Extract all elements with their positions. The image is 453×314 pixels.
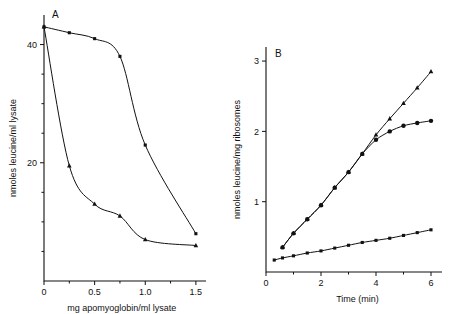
- panel-label: A: [52, 9, 59, 20]
- data-point-sigmoidal-curve: [68, 31, 71, 34]
- data-point-shallow-series: [361, 241, 364, 244]
- data-point-sigmoidal-curve: [93, 37, 96, 40]
- data-point-saturating-series: [291, 231, 295, 235]
- data-point-saturating-series: [374, 138, 378, 142]
- panel-label: B: [275, 48, 282, 59]
- data-point-saturating-series: [429, 119, 433, 123]
- data-point-saturating-series: [415, 121, 419, 125]
- data-point-sigmoidal-curve: [144, 143, 147, 146]
- data-point-shallow-series: [347, 244, 350, 247]
- series-curve-shallow-series: [274, 230, 431, 260]
- data-point-shallow-series: [416, 231, 419, 234]
- axis-lines: [266, 47, 442, 272]
- x-axis-title: mg apomyoglobin/ml lysate: [67, 303, 176, 313]
- y-axis-title: nmoles leucine/mg ribosomes: [232, 99, 242, 219]
- y-tick-label: 40: [27, 40, 37, 50]
- data-point-hyperbolic-curve: [67, 163, 72, 167]
- panel-b-plot: 0246123Time (min)nmoles leucine/mg ribos…: [225, 0, 453, 314]
- series-curve-hyperbolic-curve: [44, 27, 196, 246]
- data-point-shallow-series: [281, 256, 284, 259]
- data-point-linear-series: [429, 69, 434, 73]
- panel-a: 00.51.01.52040mg apomyoglobin/ml lysaten…: [0, 0, 228, 314]
- data-point-saturating-series: [319, 203, 323, 207]
- data-point-shallow-series: [374, 239, 377, 242]
- x-tick-label: 1.5: [190, 287, 203, 297]
- x-tick-label: 1.0: [139, 287, 152, 297]
- x-tick-label: 2: [318, 278, 323, 288]
- data-point-saturating-series: [305, 217, 309, 221]
- data-point-sigmoidal-curve: [194, 232, 197, 235]
- panel-b: 0246123Time (min)nmoles leucine/mg ribos…: [225, 0, 453, 314]
- series-curve-saturating-series: [283, 121, 432, 248]
- y-axis-title: nmoles leucine/ml lysate: [8, 99, 18, 197]
- x-tick-label: 0: [263, 278, 268, 288]
- series-curve-linear-series: [283, 72, 432, 248]
- data-point-saturating-series: [401, 124, 405, 128]
- data-point-shallow-series: [306, 251, 309, 254]
- panel-a-plot: 00.51.01.52040mg apomyoglobin/ml lysaten…: [0, 0, 228, 314]
- scientific-figure: 00.51.01.52040mg apomyoglobin/ml lysaten…: [0, 0, 453, 314]
- axis-lines: [44, 15, 206, 281]
- data-point-hyperbolic-curve: [42, 24, 47, 28]
- data-point-shallow-series: [429, 228, 432, 231]
- data-point-shallow-series: [292, 254, 295, 257]
- x-tick-label: 0.5: [88, 287, 101, 297]
- x-tick-label: 6: [428, 278, 433, 288]
- data-point-saturating-series: [333, 185, 337, 189]
- x-tick-label: 4: [373, 278, 378, 288]
- data-point-saturating-series: [280, 245, 284, 249]
- data-point-shallow-series: [388, 237, 391, 240]
- data-point-saturating-series: [360, 152, 364, 156]
- data-point-sigmoidal-curve: [118, 55, 121, 58]
- x-tick-label: 0: [41, 287, 46, 297]
- data-point-shallow-series: [319, 249, 322, 252]
- y-tick-label: 20: [27, 158, 37, 168]
- y-tick-label: 3: [254, 56, 259, 66]
- y-tick-label: 2: [254, 127, 259, 137]
- data-point-shallow-series: [333, 247, 336, 250]
- data-point-saturating-series: [346, 170, 350, 174]
- data-point-shallow-series: [402, 234, 405, 237]
- data-point-saturating-series: [388, 129, 392, 133]
- y-tick-label: 1: [254, 197, 259, 207]
- data-point-shallow-series: [273, 258, 276, 261]
- x-axis-title: Time (min): [336, 294, 379, 304]
